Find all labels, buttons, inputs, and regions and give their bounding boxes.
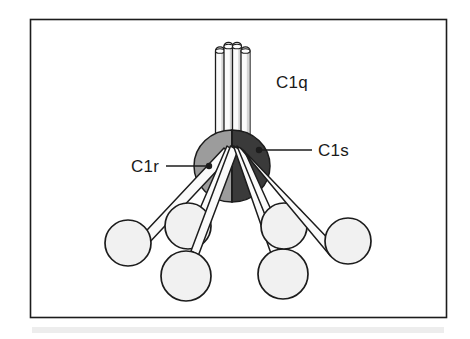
c1q-tube-1-cap bbox=[216, 49, 225, 54]
label-c1q: C1q bbox=[276, 73, 308, 92]
c1q-tube-2-cap bbox=[224, 44, 233, 49]
arm-6-head bbox=[325, 218, 371, 264]
c1q-tube-3-cap bbox=[233, 44, 242, 49]
arm-1-head bbox=[105, 220, 151, 266]
c1q-tube-4-cap bbox=[241, 49, 250, 54]
c1r-leader-dot bbox=[206, 163, 212, 169]
c1q-tube-4-shade bbox=[247, 50, 250, 143]
figure-root: C1q C1r C1s bbox=[0, 0, 470, 339]
c1-complex-diagram: C1q C1r C1s bbox=[0, 0, 470, 339]
c1q-collagen-stalk bbox=[216, 42, 251, 143]
c1s-leader-dot bbox=[256, 147, 262, 153]
label-c1s: C1s bbox=[318, 141, 349, 160]
arm-3-head bbox=[161, 251, 211, 301]
arm-4-head bbox=[258, 249, 308, 299]
label-c1r: C1r bbox=[131, 157, 159, 176]
scan-artifact-band bbox=[32, 327, 444, 333]
